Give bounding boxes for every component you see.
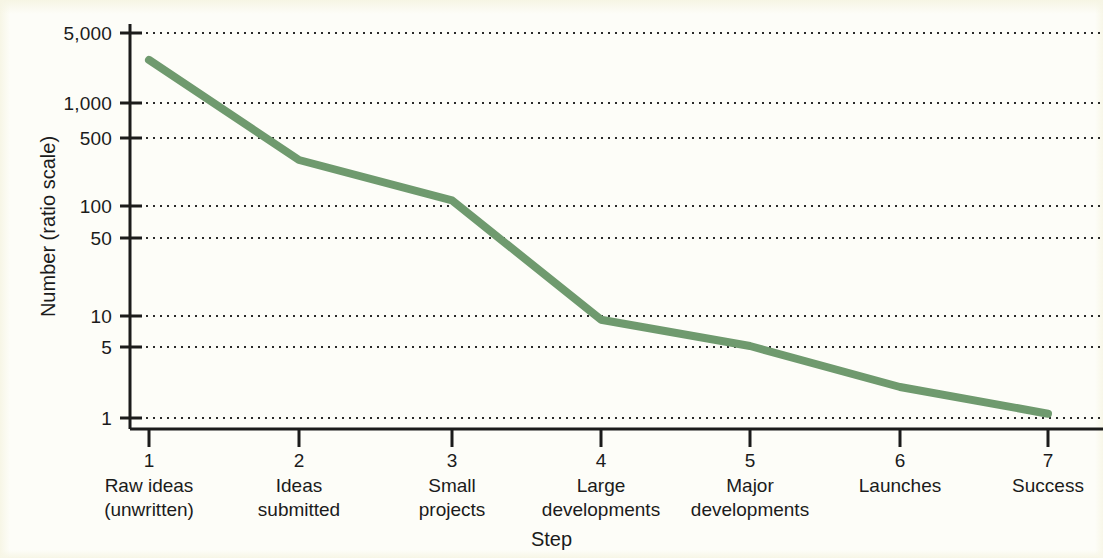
x-tick-number-7: 7 (968, 451, 1103, 471)
data-series-line (149, 60, 1048, 414)
y-tick-label-1: 1 (0, 409, 112, 428)
x-tick-caption-1-line2: (unwritten) (69, 498, 229, 522)
x-tick-caption-5-line2: developments (662, 498, 838, 522)
x-tick-caption-2-line2: submitted (219, 498, 379, 522)
x-tick-caption-5-line1: Major (670, 474, 830, 498)
x-tick-number-2: 2 (219, 451, 379, 471)
x-tick-number-6: 6 (820, 451, 980, 471)
x-tick-caption-6-line1: Launches (820, 474, 980, 498)
x-tick-number-3: 3 (372, 451, 532, 471)
x-axis-title: Step (0, 528, 1103, 551)
x-tick-number-5: 5 (670, 451, 830, 471)
x-tick-caption-3-line2: projects (372, 498, 532, 522)
y-tick-label-5: 5 (0, 338, 112, 357)
x-tick-number-4: 4 (521, 451, 681, 471)
x-tick-caption-3-line1: Small (372, 474, 532, 498)
x-tick-caption-1-line1: Raw ideas (69, 474, 229, 498)
x-tick-number-1: 1 (69, 451, 229, 471)
y-tick-label-5000: 5,000 (0, 24, 112, 43)
y-tick-label-1000: 1,000 (0, 94, 112, 113)
x-tick-caption-4-line1: Large (521, 474, 681, 498)
x-tick-caption-7-line1: Success (968, 474, 1103, 498)
chart-figure: 5,000 1,000 500 100 50 10 5 1 1 2 3 4 5 … (0, 0, 1103, 558)
x-tick-caption-2-line1: Ideas (219, 474, 379, 498)
gridlines (132, 33, 1103, 418)
y-axis-title: Number (ratio scale) (37, 117, 60, 337)
x-tick-marks (149, 429, 1048, 447)
